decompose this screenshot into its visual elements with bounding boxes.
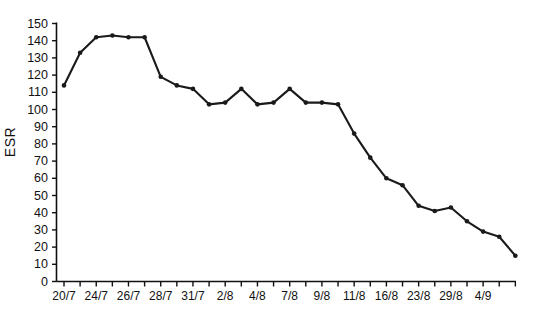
data-point-marker [78,50,83,55]
data-point-marker [432,209,437,214]
series-line [64,36,515,256]
data-point-marker [416,204,421,209]
data-point-marker [158,75,163,80]
x-axis-tick-label: 9/8 [314,289,331,303]
data-point-marker [94,35,99,40]
data-point-marker [255,102,260,107]
data-point-marker [110,33,115,38]
x-axis-tick-label: 4/9 [475,289,492,303]
x-axis-tick-label: 31/7 [181,289,204,303]
data-point-marker [126,35,131,40]
data-point-marker [304,100,309,105]
x-axis-tick-label: 7/8 [281,289,298,303]
x-axis-tick-label: 29/8 [439,289,462,303]
data-point-marker [142,35,147,40]
data-point-marker [481,229,486,234]
x-axis-tick-label: 26/7 [117,289,140,303]
x-axis-tick-label: 4/8 [249,289,266,303]
x-axis-tick-label: 24/7 [85,289,108,303]
data-point-marker [271,100,276,105]
x-axis-tick-label: 23/8 [407,289,430,303]
data-point-marker [449,205,454,210]
axes-group [52,23,516,287]
data-point-marker [497,234,502,239]
data-point-marker [465,219,470,224]
x-axis-tick-label: 28/7 [149,289,172,303]
data-point-marker [352,131,357,136]
data-point-marker [191,87,196,92]
x-axis-tick-label: 11/8 [343,289,365,303]
data-point-marker [62,83,67,88]
data-point-marker [368,155,373,160]
data-point-marker [207,102,212,107]
data-point-marker [287,87,292,92]
data-point-marker [400,183,405,188]
data-point-marker [336,102,341,107]
data-point-marker [175,83,180,88]
esr-line-chart: ESR 010203040506070809010011012013014015… [0,0,537,315]
x-axis-tick-label: 16/8 [375,289,398,303]
plot-area [0,0,537,315]
x-axis-tick-label: 20/7 [52,289,75,303]
data-point-marker [513,253,518,258]
data-point-marker [223,100,228,105]
data-point-marker [239,87,244,92]
x-axis-tick-label: 2/8 [217,289,234,303]
data-point-marker [320,100,325,105]
data-series-esr [62,33,518,258]
data-point-marker [384,176,389,181]
